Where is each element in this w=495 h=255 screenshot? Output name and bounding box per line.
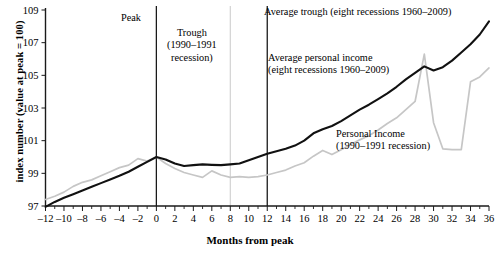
svg-text:24: 24 xyxy=(373,213,384,224)
svg-text:10: 10 xyxy=(244,213,255,224)
svg-text:16: 16 xyxy=(299,213,310,224)
annotation-average-trough: Average trough (eight recessions 1960–20… xyxy=(264,6,451,18)
svg-text:18: 18 xyxy=(317,213,328,224)
svg-text:–10: –10 xyxy=(55,213,72,224)
y-axis-tick-labels: 9799101103105107109 xyxy=(23,5,39,212)
svg-text:4: 4 xyxy=(191,213,197,224)
svg-text:105: 105 xyxy=(23,70,39,81)
annotation-personal-income: Personal Income (1990–1991 recession) xyxy=(336,128,430,153)
annotation-trough: Trough (1990–1991 recession) xyxy=(167,27,217,64)
annotation-peak: Peak xyxy=(121,12,141,24)
svg-text:97: 97 xyxy=(28,201,39,212)
svg-text:0: 0 xyxy=(154,213,159,224)
svg-text:–4: –4 xyxy=(113,213,125,224)
svg-text:34: 34 xyxy=(465,213,476,224)
svg-text:28: 28 xyxy=(410,213,421,224)
svg-text:30: 30 xyxy=(428,213,439,224)
svg-text:26: 26 xyxy=(391,213,402,224)
svg-text:2: 2 xyxy=(172,213,177,224)
y-axis-title: index number (value at peak = 100) xyxy=(14,0,25,217)
svg-text:36: 36 xyxy=(484,213,495,224)
svg-text:107: 107 xyxy=(23,37,39,48)
svg-text:12: 12 xyxy=(262,213,273,224)
x-axis-ticks xyxy=(46,206,490,211)
svg-text:–6: –6 xyxy=(95,213,107,224)
svg-text:32: 32 xyxy=(447,213,458,224)
x-axis-title: Months from peak xyxy=(160,234,340,246)
svg-text:8: 8 xyxy=(228,213,233,224)
x-axis-tick-labels: –12–10–8–6–4–202468101214161820222426283… xyxy=(37,213,495,224)
svg-text:109: 109 xyxy=(23,5,39,16)
svg-text:101: 101 xyxy=(23,135,39,146)
chart-container: 9799101103105107109 –12–10–8–6–4–2024681… xyxy=(0,0,495,255)
svg-text:–8: –8 xyxy=(76,213,88,224)
svg-text:103: 103 xyxy=(23,103,39,114)
svg-text:14: 14 xyxy=(280,213,291,224)
annotation-average-personal-income: Average personal income (eight recession… xyxy=(268,52,389,77)
svg-text:6: 6 xyxy=(209,213,214,224)
svg-text:–12: –12 xyxy=(37,213,54,224)
svg-text:20: 20 xyxy=(336,213,347,224)
svg-text:22: 22 xyxy=(354,213,365,224)
svg-text:–2: –2 xyxy=(132,213,144,224)
svg-text:99: 99 xyxy=(28,168,39,179)
